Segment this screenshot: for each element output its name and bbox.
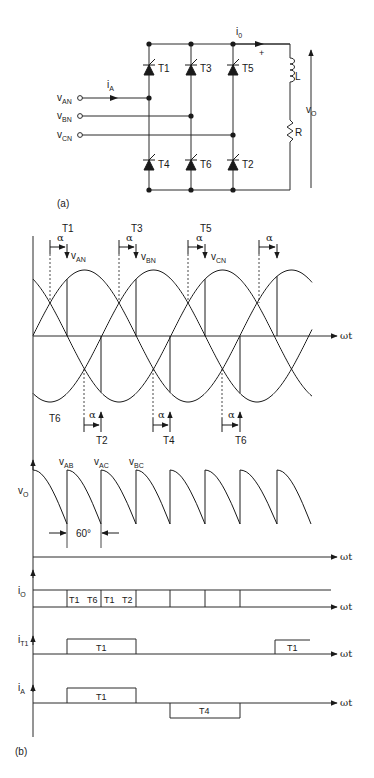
it1-pulse-2: T1 xyxy=(287,643,298,653)
axis-label-wt-4: ωt xyxy=(340,648,352,659)
trigger-label-t1: T1 xyxy=(62,223,74,234)
label-ia-wave: iA xyxy=(18,682,25,695)
it1-pulse-1: T1 xyxy=(96,643,107,653)
output-voltage-panel: ωt xyxy=(33,460,352,562)
alpha-5: α xyxy=(89,409,96,420)
trigger-label-t6: T6 xyxy=(235,435,247,446)
axis-label-wt-2: ωt xyxy=(340,551,352,562)
ia-panel xyxy=(33,685,337,718)
label-60deg: 60° xyxy=(76,528,91,539)
label-t5: T5 xyxy=(242,63,254,74)
label-t2: T2 xyxy=(242,159,254,170)
label-t1: T1 xyxy=(158,63,170,74)
figure-label-a: (a) xyxy=(57,198,69,209)
alpha-4: α xyxy=(266,232,273,243)
ia-pulse-t1: T1 xyxy=(96,692,107,702)
label-vbn: vBN xyxy=(57,110,72,123)
io-cell-2: T6 xyxy=(87,595,98,605)
io-cell-1: T1 xyxy=(69,595,80,605)
axis-label-wt-5: ωt xyxy=(340,697,352,708)
label-t3: T3 xyxy=(200,63,212,74)
label-vbc: vBC xyxy=(129,456,144,469)
axis-label-wt-1: ωt xyxy=(340,330,352,341)
input-terminals xyxy=(78,96,83,138)
label-t6: T6 xyxy=(200,159,212,170)
label-resistor: R xyxy=(295,127,302,138)
label-vac: vAC xyxy=(94,456,109,469)
vo-waveform xyxy=(33,470,311,524)
phase-label-vcn: vCN xyxy=(211,251,226,264)
cropped-caption xyxy=(8,769,368,778)
io-cell-3: T1 xyxy=(104,595,115,605)
alpha-7: α xyxy=(228,409,235,420)
trigger-label-t4: T4 xyxy=(163,435,175,446)
label-vcn: vCN xyxy=(57,129,72,142)
label-vo: vO xyxy=(18,485,29,498)
label-it1: iT1 xyxy=(18,634,29,647)
phase-label-van: vAN xyxy=(71,250,86,263)
label-plus: + xyxy=(259,48,264,58)
circuit-diagram xyxy=(82,44,311,190)
phase-label-vbn: vBN xyxy=(141,251,156,264)
rectifier-figure: T1 T3 T5 T4 T6 T2 vAN vBN vCN iA i0 + L … xyxy=(0,0,374,778)
start-label-t6: T6 xyxy=(49,413,61,424)
figure-svg: T1 T3 T5 T4 T6 T2 vAN vBN vCN iA i0 + L … xyxy=(0,0,374,778)
alpha-6: α xyxy=(158,409,165,420)
io-arrow-icon xyxy=(255,41,264,47)
axis-label-wt-3: ωt xyxy=(340,601,352,612)
label-van: vAN xyxy=(57,92,72,105)
trigger-label-t5: T5 xyxy=(200,223,212,234)
trigger-label-t2: T2 xyxy=(96,435,108,446)
label-t4: T4 xyxy=(158,159,170,170)
label-io-wave: iO xyxy=(18,585,26,598)
firing-lines xyxy=(67,276,277,393)
ia-pulse-t4: T4 xyxy=(199,706,210,716)
trigger-label-t3: T3 xyxy=(131,223,143,234)
label-vab: vAB xyxy=(59,456,74,469)
label-ia: iA xyxy=(107,79,114,92)
ia-arrow-icon xyxy=(110,95,118,101)
figure-label-b: (b) xyxy=(15,746,27,757)
io-cell-4: T2 xyxy=(122,595,133,605)
label-inductor: L xyxy=(295,71,301,82)
label-io: i0 xyxy=(236,26,242,39)
phase-voltage-panel: ωt xyxy=(33,254,352,418)
